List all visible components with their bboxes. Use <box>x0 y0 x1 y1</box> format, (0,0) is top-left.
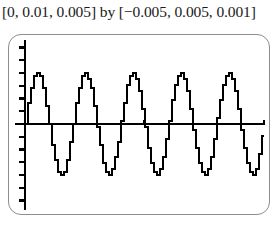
calculator-screen <box>8 34 270 215</box>
figure-container: [0, 0.01, 0.005] by [−0.005, 0.005, 0.00… <box>0 0 277 227</box>
sine-plot <box>8 34 270 215</box>
window-settings-caption: [0, 0.01, 0.005] by [−0.005, 0.005, 0.00… <box>2 1 277 23</box>
